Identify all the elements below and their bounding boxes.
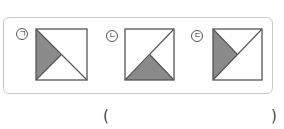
answer-open-paren: (: [103, 108, 109, 124]
option-label-1: ㄱ: [16, 28, 28, 40]
option-label-2: ㄴ: [106, 30, 118, 42]
answer-close-paren: ): [271, 108, 277, 124]
figure-option-1: [35, 28, 89, 82]
figure-option-3: [212, 28, 266, 82]
figure-option-2: [124, 28, 178, 82]
option-label-3: ㄷ: [191, 30, 203, 42]
